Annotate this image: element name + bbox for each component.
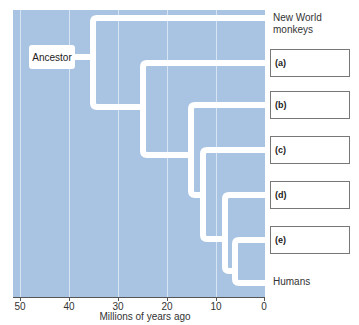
- answer-box-c[interactable]: (c): [270, 136, 350, 164]
- box-label-a: (a): [275, 58, 286, 68]
- answer-box-b[interactable]: (b): [270, 91, 350, 119]
- answer-box-a[interactable]: (a): [270, 49, 350, 77]
- x-axis-line: [13, 297, 265, 298]
- box-label-e: (e): [275, 235, 286, 245]
- x-axis-title: Millions of years ago: [0, 311, 290, 322]
- tree-plot-area: Ancestor: [13, 10, 265, 297]
- ancestor-label: Ancestor: [29, 45, 75, 69]
- box-label-c: (c): [275, 145, 286, 155]
- answer-box-d[interactable]: (d): [270, 181, 350, 209]
- leaf-humans: Humans: [273, 276, 310, 288]
- box-label-b: (b): [275, 100, 287, 110]
- leaf-new-world-monkeys: New World monkeys: [273, 12, 343, 36]
- box-label-d: (d): [275, 190, 287, 200]
- answer-box-e[interactable]: (e): [270, 226, 350, 254]
